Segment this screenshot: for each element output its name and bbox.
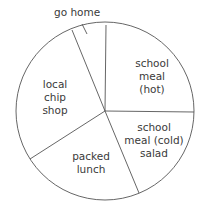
label-line: salad — [124, 147, 184, 160]
label-line: meal (cold) — [124, 134, 184, 147]
label-line: shop — [35, 104, 75, 117]
label-packed-lunch: packed lunch — [66, 150, 116, 176]
label-school-meal-cold: school meal (cold) salad — [124, 121, 184, 160]
label-school-meal-hot: school meal (hot) — [124, 57, 180, 96]
label-line: (hot) — [124, 83, 180, 96]
pie-chart — [0, 0, 204, 209]
label-line: chip — [35, 91, 75, 104]
label-local-chip-shop: local chip shop — [35, 78, 75, 117]
label-line: school — [124, 121, 184, 134]
label-line: meal — [124, 70, 180, 83]
label-go-home: go home — [54, 6, 100, 19]
label-line: local — [35, 78, 75, 91]
label-line: packed — [66, 150, 116, 163]
label-line: lunch — [66, 163, 116, 176]
label-line: school — [124, 57, 180, 70]
